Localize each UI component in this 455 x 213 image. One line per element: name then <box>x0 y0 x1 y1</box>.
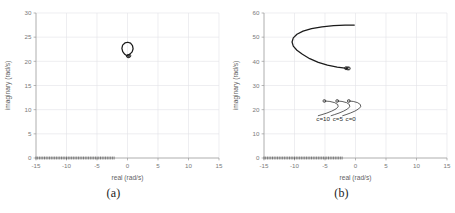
x-tick-label: -5 <box>94 162 100 169</box>
y-axis-title: imaginary (rad/s) <box>232 61 240 110</box>
y-tick-label: 25 <box>25 33 32 40</box>
curve-hook-branch-c10 <box>318 101 338 116</box>
x-tick-label: -10 <box>290 162 300 169</box>
plot-b: -15-10-50510150102030405060real (rad/s)i… <box>228 0 455 186</box>
x-tick-label: 10 <box>185 162 192 169</box>
x-tick-label: 0 <box>126 162 130 169</box>
curve-large-locus-branch <box>292 25 354 68</box>
x-tick-label: -15 <box>260 162 270 169</box>
y-tick-label: 40 <box>253 58 260 65</box>
y-tick-label: 30 <box>253 82 260 89</box>
panel-b: -15-10-50510150102030405060real (rad/s)i… <box>228 0 455 213</box>
curve-hook-branch-c5 <box>331 101 350 116</box>
curve-annotation: c=10 <box>316 115 330 122</box>
figure-root-locus: -15-10-5051015051015202530real (rad/s)im… <box>0 0 455 213</box>
curve-annotation: c=0 <box>346 115 357 122</box>
x-tick-label: 0 <box>354 162 358 169</box>
panel-a: -15-10-5051015051015202530real (rad/s)im… <box>0 0 227 213</box>
x-tick-label: 10 <box>413 162 420 169</box>
y-tick-label: 0 <box>256 154 260 161</box>
y-tick-label: 50 <box>253 33 260 40</box>
x-tick-label: 5 <box>384 162 388 169</box>
plot-a: -15-10-5051015051015202530real (rad/s)im… <box>0 0 227 186</box>
y-tick-label: 10 <box>253 130 260 137</box>
y-tick-label: 30 <box>25 9 32 16</box>
x-tick-label: 15 <box>444 162 451 169</box>
y-tick-label: 60 <box>253 9 260 16</box>
panel-a-caption: (a) <box>0 186 227 201</box>
y-tick-label: 0 <box>28 154 32 161</box>
curve-annotation: c=5 <box>333 115 344 122</box>
x-tick-label: -15 <box>32 162 42 169</box>
x-tick-label: -10 <box>62 162 72 169</box>
x-tick-label: 5 <box>156 162 160 169</box>
x-axis-title: real (rad/s) <box>340 174 372 182</box>
x-axis-title: real (rad/s) <box>112 174 144 182</box>
curve-hook-branch-c0 <box>343 101 361 116</box>
x-tick-label: 15 <box>216 162 223 169</box>
y-axis-title: imaginary (rad/s) <box>4 61 12 110</box>
y-tick-label: 5 <box>28 130 32 137</box>
y-tick-label: 15 <box>25 82 32 89</box>
y-tick-label: 10 <box>25 106 32 113</box>
y-tick-label: 20 <box>25 58 32 65</box>
x-tick-label: -5 <box>322 162 328 169</box>
panel-b-caption: (b) <box>228 186 455 201</box>
y-tick-label: 20 <box>253 106 260 113</box>
